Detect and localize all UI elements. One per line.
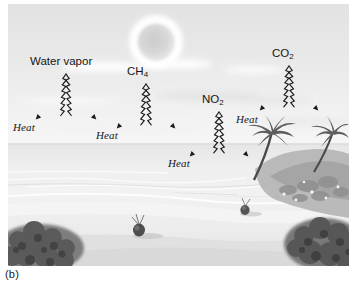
label-heat-1: Heat (13, 122, 35, 133)
label-heat-2: Heat (96, 130, 118, 141)
figure-panel: Water vapor CH4 NO2 CO2 Heat Heat Heat H… (8, 4, 349, 266)
sun-graphic (126, 12, 186, 72)
label-heat-3: Heat (168, 158, 190, 169)
label-heat-4: Heat (236, 114, 258, 125)
label-nitrogen-dioxide: NO2 (202, 94, 224, 107)
beach-scene-illustration (8, 4, 349, 266)
figure-caption: (b) (5, 268, 19, 280)
label-water-vapor: Water vapor (30, 56, 92, 68)
label-carbon-dioxide: CO2 (272, 48, 294, 61)
label-methane: CH4 (127, 66, 148, 79)
